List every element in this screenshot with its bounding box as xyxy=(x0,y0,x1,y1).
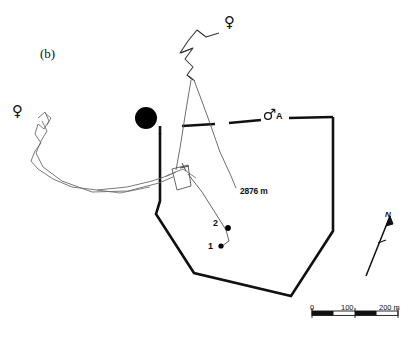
female-top-leg-right xyxy=(194,80,236,188)
female-symbol-top: ♀ xyxy=(224,13,235,31)
scale-label-100: 100 xyxy=(341,303,354,312)
north-label: N xyxy=(385,210,391,219)
distance-label: 2876 m xyxy=(240,186,268,196)
female-top-track xyxy=(180,30,219,81)
point-1-marker xyxy=(218,243,223,248)
point-2-label: 2 xyxy=(213,218,218,228)
female-symbol-left: ♀ xyxy=(12,102,23,120)
black-filled-circle xyxy=(135,107,157,129)
male-a-symbol xyxy=(265,109,275,119)
nest-quadrilateral xyxy=(166,163,196,190)
north-arrow xyxy=(366,216,393,276)
track-to-points xyxy=(188,174,229,246)
point-2-marker xyxy=(225,225,231,231)
figure-canvas xyxy=(0,0,419,338)
panel-label: (b) xyxy=(40,46,55,62)
home-range-boundary xyxy=(156,117,333,296)
scale-label-200: 200 m xyxy=(379,303,400,312)
male-a-label: A xyxy=(276,111,283,121)
scale-label-0: 0 xyxy=(310,303,314,312)
point-1-label: 1 xyxy=(208,241,213,251)
